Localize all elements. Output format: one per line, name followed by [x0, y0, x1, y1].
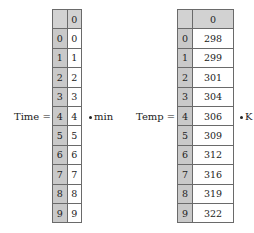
time-label: Time =: [14, 111, 51, 123]
matrix-row: 5309: [178, 126, 234, 145]
time-unit: min: [89, 111, 113, 123]
cell-value[interactable]: 319: [193, 184, 234, 203]
matrix-row: 66: [53, 145, 82, 164]
row-index: 4: [178, 106, 193, 125]
matrix-row: 11: [53, 48, 82, 67]
cell-value[interactable]: 2: [67, 68, 82, 87]
cell-value[interactable]: 316: [193, 165, 234, 184]
matrix-row: 7316: [178, 165, 234, 184]
multiply-dot-icon: [240, 116, 243, 119]
matrix-row: 1299: [178, 48, 234, 67]
cell-value[interactable]: 301: [193, 68, 234, 87]
matrix-row: 0298: [178, 29, 234, 48]
cell-value[interactable]: 9: [67, 203, 82, 222]
temp-unit: K: [240, 111, 252, 123]
cell-value[interactable]: 6: [67, 145, 82, 164]
cell-value[interactable]: 309: [193, 126, 234, 145]
row-index: 7: [178, 165, 193, 184]
row-index: 2: [178, 68, 193, 87]
corner-cell: [53, 10, 68, 29]
row-index: 9: [53, 203, 68, 222]
matrix-row: 8319: [178, 184, 234, 203]
column-header: 0: [67, 10, 82, 29]
row-index: 4: [53, 106, 68, 125]
cell-value[interactable]: 1: [67, 48, 82, 67]
temp-label: Temp =: [136, 111, 175, 123]
matrix-row: 9322: [178, 203, 234, 222]
cell-value[interactable]: 8: [67, 184, 82, 203]
temp-matrix: 0 0298 1299 2301 3304 4306 5309 6312 731…: [177, 9, 234, 223]
matrix-row: 2301: [178, 68, 234, 87]
matrix-row: 3304: [178, 87, 234, 106]
matrix-row: 33: [53, 87, 82, 106]
cell-value[interactable]: 299: [193, 48, 234, 67]
row-index: 8: [53, 184, 68, 203]
row-index: 0: [178, 29, 193, 48]
cell-value[interactable]: 5: [67, 126, 82, 145]
row-index: 2: [53, 68, 68, 87]
matrix-row: 44: [53, 106, 82, 125]
row-index: 3: [178, 87, 193, 106]
corner-cell: [178, 10, 193, 29]
time-unit-label: min: [94, 111, 113, 122]
cell-value[interactable]: 7: [67, 165, 82, 184]
matrix-row: 6312: [178, 145, 234, 164]
column-header: 0: [193, 10, 234, 29]
row-index: 8: [178, 184, 193, 203]
row-index: 1: [53, 48, 68, 67]
matrix-header-row: 0: [53, 10, 82, 29]
row-index: 7: [53, 165, 68, 184]
time-matrix: 0 00 11 22 33 44 55 66 77 88 99: [52, 9, 82, 223]
row-index: 5: [53, 126, 68, 145]
multiply-dot-icon: [89, 116, 92, 119]
row-index: 9: [178, 203, 193, 222]
cell-value[interactable]: 3: [67, 87, 82, 106]
row-index: 6: [53, 145, 68, 164]
matrix-row: 88: [53, 184, 82, 203]
matrix-row: 22: [53, 68, 82, 87]
cell-value[interactable]: 304: [193, 87, 234, 106]
row-index: 1: [178, 48, 193, 67]
cell-value[interactable]: 0: [67, 29, 82, 48]
matrix-row: 99: [53, 203, 82, 222]
matrix-header-row: 0: [178, 10, 234, 29]
row-index: 3: [53, 87, 68, 106]
matrix-row: 77: [53, 165, 82, 184]
matrix-row: 4306: [178, 106, 234, 125]
cell-value[interactable]: 312: [193, 145, 234, 164]
matrix-row: 55: [53, 126, 82, 145]
cell-value[interactable]: 322: [193, 203, 234, 222]
cell-value[interactable]: 306: [193, 106, 234, 125]
matrix-row: 00: [53, 29, 82, 48]
row-index: 5: [178, 126, 193, 145]
cell-value[interactable]: 298: [193, 29, 234, 48]
cell-value[interactable]: 4: [67, 106, 82, 125]
temp-unit-label: K: [245, 111, 252, 122]
row-index: 6: [178, 145, 193, 164]
row-index: 0: [53, 29, 68, 48]
